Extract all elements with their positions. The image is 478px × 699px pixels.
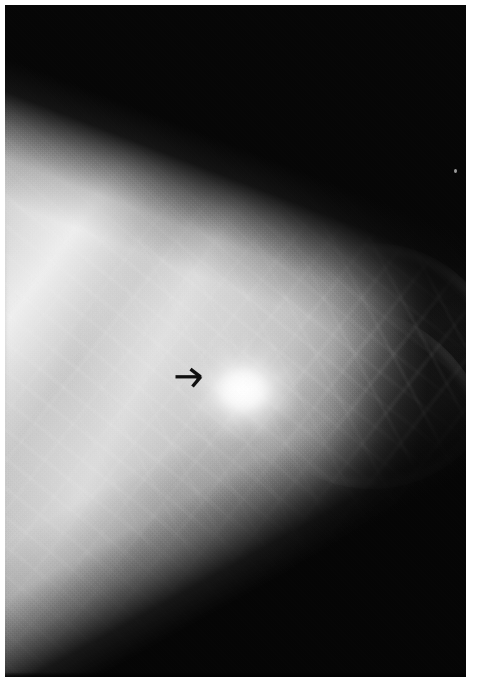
- film-bottom-edge: [5, 672, 466, 677]
- page-root: [0, 0, 478, 699]
- film-speck-artifact: [454, 169, 457, 173]
- mammogram-image: [5, 5, 466, 677]
- film-grain-layer-secondary: [5, 5, 466, 677]
